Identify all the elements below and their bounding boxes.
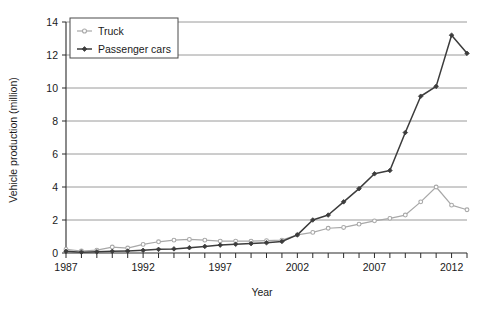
data-point-marker bbox=[172, 247, 177, 252]
data-point-marker bbox=[403, 130, 408, 135]
chart-legend: TruckPassenger cars bbox=[70, 18, 178, 58]
x-axis-tick-label: 1997 bbox=[209, 261, 233, 273]
y-axis-group: 02468101214 bbox=[46, 16, 66, 259]
data-point-marker bbox=[203, 238, 207, 242]
data-point-marker bbox=[450, 203, 454, 207]
y-axis-tick-label: 4 bbox=[52, 181, 58, 193]
series-passenger-cars bbox=[64, 33, 470, 255]
x-axis-tick-label: 2002 bbox=[286, 261, 310, 273]
data-point-marker bbox=[157, 240, 161, 244]
data-point-marker bbox=[419, 200, 423, 204]
legend-item-label: Truck bbox=[98, 25, 125, 37]
x-axis-group: 198719921997200220072012 bbox=[54, 253, 467, 273]
data-point-marker bbox=[187, 245, 192, 250]
data-point-marker bbox=[156, 247, 161, 252]
y-axis-tick-label: 0 bbox=[52, 247, 58, 259]
data-point-marker bbox=[434, 185, 438, 189]
data-point-marker bbox=[203, 244, 208, 249]
y-axis-tick-label: 6 bbox=[52, 148, 58, 160]
data-point-marker bbox=[465, 208, 469, 212]
x-axis-title: Year bbox=[251, 286, 273, 298]
series-group bbox=[64, 33, 470, 255]
x-axis-tick-label: 2007 bbox=[363, 261, 387, 273]
y-axis-tick-label: 14 bbox=[46, 16, 58, 28]
data-point-marker bbox=[110, 245, 114, 249]
x-axis-tick-label: 2012 bbox=[440, 261, 464, 273]
data-point-marker bbox=[311, 230, 315, 234]
y-axis-tick-label: 12 bbox=[46, 49, 58, 61]
y-axis-tick-label: 10 bbox=[46, 82, 58, 94]
y-axis-title: Vehicle production (million) bbox=[7, 77, 19, 202]
y-axis-tick-label: 8 bbox=[52, 115, 58, 127]
y-axis-tick-label: 2 bbox=[52, 214, 58, 226]
data-point-marker bbox=[357, 222, 361, 226]
legend-swatch-marker bbox=[83, 29, 87, 33]
data-point-marker bbox=[187, 238, 191, 242]
legend-item-label: Passenger cars bbox=[98, 43, 171, 55]
data-point-marker bbox=[218, 243, 223, 248]
data-point-marker bbox=[141, 243, 145, 247]
chart-canvas: 02468101214 198719921997200220072012 Tru… bbox=[0, 0, 491, 309]
x-axis-tick-label: 1992 bbox=[131, 261, 155, 273]
data-point-marker bbox=[388, 216, 392, 220]
data-point-marker bbox=[373, 219, 377, 223]
data-point-marker bbox=[403, 213, 407, 217]
data-point-marker bbox=[141, 248, 146, 253]
line-chart: 02468101214 198719921997200220072012 Tru… bbox=[0, 0, 491, 309]
data-point-marker bbox=[388, 168, 393, 173]
data-point-marker bbox=[342, 226, 346, 230]
data-point-marker bbox=[326, 226, 330, 230]
data-point-marker bbox=[172, 238, 176, 242]
x-axis-tick-label: 1987 bbox=[54, 261, 78, 273]
